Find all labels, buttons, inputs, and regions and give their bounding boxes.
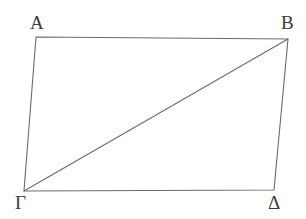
figure-background [0, 0, 306, 219]
vertex-label-beta: Β [281, 13, 294, 32]
vertex-label-gamma: Γ [15, 193, 26, 212]
vertex-label-delta: Δ [268, 193, 280, 212]
vertex-label-alpha: Α [30, 13, 44, 32]
geometry-figure [0, 0, 306, 219]
